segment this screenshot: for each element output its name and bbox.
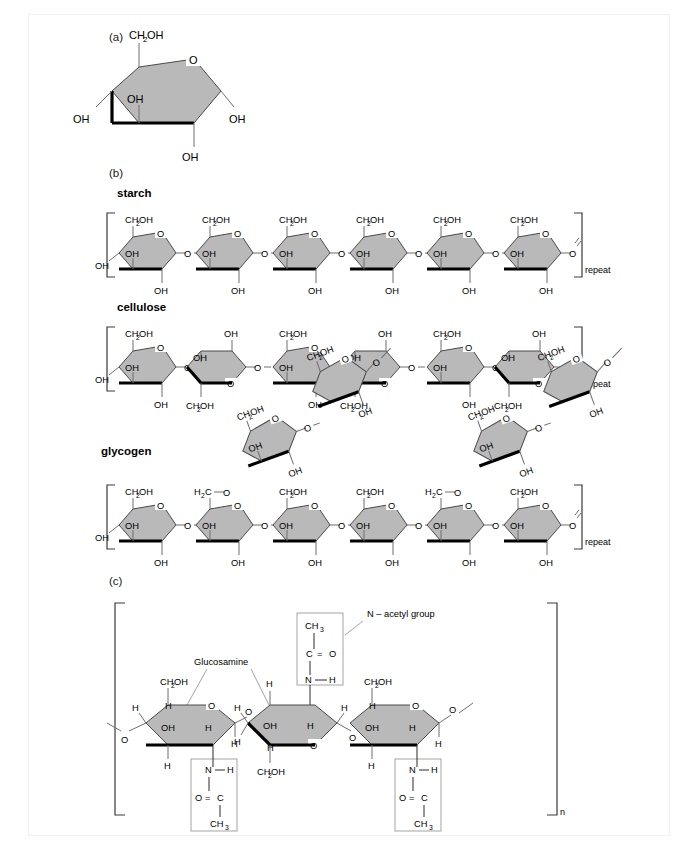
glucose-unit: CH 2 OH O OH OH O xyxy=(273,215,353,296)
atom-oh-bottom: OH xyxy=(154,286,168,296)
atom-ring-oxygen: O xyxy=(465,229,472,239)
n-acetyl-group-box-down: N H O = C CH 3 xyxy=(395,745,441,831)
atom-ch2oh-tail: OH xyxy=(293,487,307,497)
atom-oh-bottom: OH xyxy=(462,400,476,410)
atom-ring-oxygen: O xyxy=(234,501,241,511)
atom-ring-oxygen: O xyxy=(465,501,472,511)
atom-oh-bottom: OH xyxy=(518,465,535,479)
atom-n: N xyxy=(205,765,212,775)
atom-ch2oh-tail: OH xyxy=(147,29,164,41)
atom-ring-oxygen: O xyxy=(311,229,318,239)
atom-c: C xyxy=(306,649,313,659)
atom-ch2oh-tail: OH xyxy=(174,677,188,687)
atom-oh-bottom: OH xyxy=(385,286,399,296)
atom-oh-inner: OH xyxy=(127,93,144,105)
atom-branch-oxygen: O xyxy=(223,488,230,498)
atom-h: H xyxy=(165,701,172,711)
bond-double: = xyxy=(409,793,414,803)
atom-h: H xyxy=(341,703,348,713)
atom-glycosidic-oxygen: O xyxy=(184,521,191,531)
atom-glycosidic-oxygen: O xyxy=(415,521,422,531)
atom-ch2oh-tail: OH xyxy=(139,215,153,225)
atom-h: H xyxy=(369,701,376,711)
panel-label-a: (a) xyxy=(109,31,123,43)
atom-ring-oxygen: O xyxy=(388,501,395,511)
atom-h: H xyxy=(329,675,336,685)
glucose-unit-branch: CH 2 OH O OH O xyxy=(531,326,641,432)
atom-oh-bottom: OH xyxy=(462,558,476,568)
chitin-unit-normal: CH 2 OH O H H OH H H H O O xyxy=(121,677,267,831)
atom-c: C xyxy=(421,793,428,803)
atom-ch2oh-tail: OH xyxy=(271,767,285,777)
atom-ch2oh-tail: OH xyxy=(200,401,214,411)
atom-oh-inner: OH xyxy=(510,249,524,259)
atom-ch2oh-tail: OH xyxy=(378,677,392,687)
atom-oh-bottom: OH xyxy=(231,286,245,296)
atom-oh-top: OH xyxy=(378,329,392,339)
atom-ch2oh-tail: OH xyxy=(447,215,461,225)
atom-glycosidic-oxygen: O xyxy=(349,733,356,743)
annotation-glucosamine: Glucosamine xyxy=(194,657,248,667)
glycogen-chain: repeat CH 2 OH O OH OH OH O H 2 C xyxy=(95,326,652,568)
atom-o: O xyxy=(329,649,336,659)
atom-ch2oh-tail: OH xyxy=(508,401,522,411)
polymer-name-starch: starch xyxy=(117,187,152,199)
atom-oh-inner: OH xyxy=(125,249,139,259)
atom-h2c-tail: C xyxy=(205,487,212,497)
atom-oh-inner: OH xyxy=(356,249,370,259)
atom-h: H xyxy=(266,679,273,689)
atom-h: H xyxy=(435,739,442,749)
bond-double: = xyxy=(317,649,322,659)
glucose-unit-branchpoint: H 2 C O O OH OH O xyxy=(425,487,507,568)
atom-oh-bottom: OH xyxy=(308,558,322,568)
atom-oh: OH xyxy=(161,723,175,733)
atom-ring-oxygen: O xyxy=(412,701,419,711)
glucose-unit: CH 2 OH O OH OH O xyxy=(504,487,576,568)
atom-h: H xyxy=(409,723,416,733)
atom-oh-bottom: OH xyxy=(154,558,168,568)
n-acetyl-group-box-up: CH 3 C = O N H xyxy=(297,613,343,685)
atom-oh-inner: OH xyxy=(202,521,216,531)
glucose-unit: CH 2 OH O OH OH O xyxy=(350,215,430,296)
atom-ring-oxygen: O xyxy=(465,343,472,353)
glucose-unit: CH 2 OH O OH OH OH O xyxy=(95,215,199,296)
atom-glycosidic-oxygen: O xyxy=(408,363,415,373)
atom-glycosidic-oxygen: O xyxy=(303,422,313,434)
atom-oh-bottom: OH xyxy=(539,558,553,568)
atom-oh: OH xyxy=(263,721,277,731)
atom-glycosidic-oxygen: O xyxy=(449,705,456,715)
atom-oh-left: OH xyxy=(95,375,109,385)
atom-ch2oh-tail: OH xyxy=(139,329,153,339)
atom-n: N xyxy=(409,765,416,775)
atom-ch2oh-tail: OH xyxy=(550,344,567,358)
atom-ch2oh-tail: OH xyxy=(293,329,307,339)
atom-glycosidic-oxygen: O xyxy=(184,249,191,259)
atom-h: H xyxy=(368,761,375,771)
atom-oh-inner: OH xyxy=(193,353,207,363)
atom-ch3: CH xyxy=(210,819,223,829)
atom-ch2oh-tail: OH xyxy=(524,215,538,225)
atom-c: C xyxy=(217,793,224,803)
atom-oh-bottom: OH xyxy=(154,400,168,410)
atom-ch3: CH xyxy=(414,819,427,829)
atom-ring-oxygen: O xyxy=(157,501,164,511)
atom-oh-bottom: OH xyxy=(182,151,199,163)
atom-oh-inner: OH xyxy=(510,521,524,531)
atom-ch3: CH xyxy=(305,621,318,631)
glucose-unit: CH 2 OH O OH OH O xyxy=(504,215,576,296)
glucose-unit-flipped: OH O OH CH 2 OH O xyxy=(186,329,271,413)
atom-oh-bottom: OH xyxy=(287,465,304,479)
atom-ring-oxygen: O xyxy=(157,343,164,353)
atom-oh-top: OH xyxy=(532,329,546,339)
atom-ch3-sub: 3 xyxy=(320,626,324,633)
atom-glycosidic-oxygen: O xyxy=(254,363,261,373)
panel-label-b: (b) xyxy=(109,167,123,179)
atom-ring-oxygen: O xyxy=(542,229,549,239)
atom-oh-left: OH xyxy=(95,261,109,271)
atom-ch2oh-tail: OH xyxy=(293,215,307,225)
atom-oh-inner: OH xyxy=(433,249,447,259)
chitin-unit-flipped: O H H OH H H H CH 2 OH H O xyxy=(234,679,371,779)
bond-double: = xyxy=(205,793,210,803)
atom-h: H xyxy=(234,703,241,713)
polymer-name-cellulose: cellulose xyxy=(117,301,166,313)
